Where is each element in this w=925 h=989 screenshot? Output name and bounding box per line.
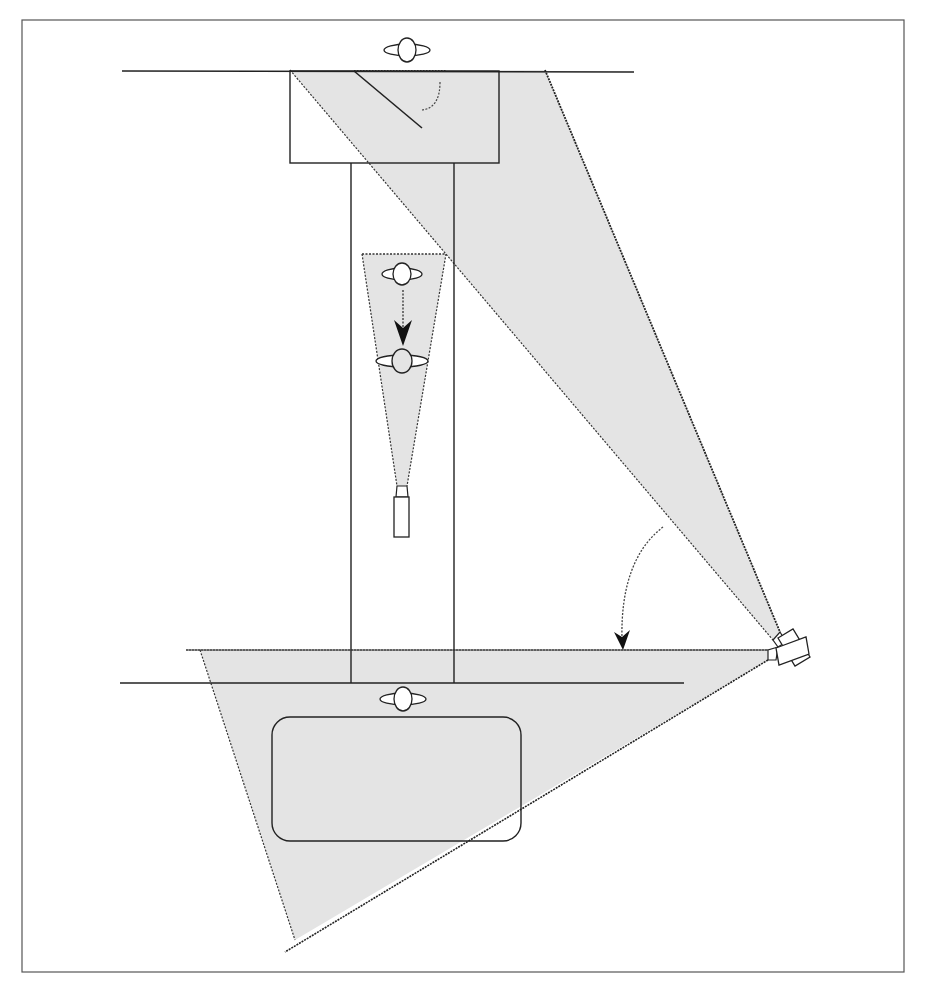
camera-view-diagram xyxy=(0,0,925,989)
small-camera-icon xyxy=(394,486,409,537)
pan-arrow xyxy=(622,527,663,640)
upper-view-cone xyxy=(290,70,780,640)
person-top-icon xyxy=(384,38,430,62)
lower-view-cone xyxy=(200,650,768,940)
pan-arrowhead-icon xyxy=(614,630,630,650)
